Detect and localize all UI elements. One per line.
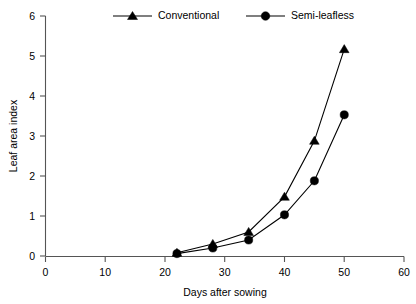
y-axis: 6 5 4 3 2 1 0 Leaf area index (7, 10, 46, 262)
legend-label-conventional: Conventional (158, 9, 219, 21)
circle-marker-icon (173, 250, 181, 258)
legend-entry-semi-leafless[interactable]: Semi-leafless (246, 9, 354, 21)
circle-marker-icon (209, 244, 217, 252)
legend-label-semi-leafless: Semi-leafless (291, 9, 354, 21)
x-tick-label-60: 60 (398, 266, 410, 278)
series-conventional (172, 45, 349, 257)
y-axis-title: Leaf area index (7, 99, 19, 172)
circle-marker-icon (280, 211, 288, 219)
legend-entry-conventional[interactable]: Conventional (113, 9, 219, 21)
y-tick-label-1: 1 (29, 210, 35, 222)
circle-marker-icon (261, 12, 270, 21)
x-axis: 0 10 20 30 40 50 60 Days after sowing (43, 257, 410, 299)
triangle-marker-icon (280, 192, 290, 200)
chart-legend: Conventional Semi-leafless (113, 9, 354, 21)
y-tick-label-2: 2 (29, 170, 35, 182)
x-tick-label-30: 30 (219, 266, 231, 278)
series-semi-leafless (173, 111, 349, 258)
line-chart: Conventional Semi-leafless 6 5 4 3 2 1 (0, 0, 416, 304)
y-tick-label-6: 6 (29, 10, 35, 22)
circle-marker-icon (245, 236, 253, 244)
x-tick-label-10: 10 (99, 266, 111, 278)
x-axis-title: Days after sowing (183, 286, 267, 298)
plot-area (172, 45, 349, 258)
y-tick-label-4: 4 (29, 90, 35, 102)
y-tick-label-3: 3 (29, 130, 35, 142)
x-tick-label-0: 0 (43, 266, 49, 278)
x-tick-label-20: 20 (159, 266, 171, 278)
triangle-marker-icon (339, 45, 349, 53)
y-tick-label-5: 5 (29, 50, 35, 62)
chart-figure: Conventional Semi-leafless 6 5 4 3 2 1 (0, 0, 416, 304)
triangle-marker-icon (310, 136, 320, 144)
series-line (177, 49, 344, 253)
series-line (177, 115, 344, 254)
circle-marker-icon (310, 177, 318, 185)
y-tick-label-0: 0 (29, 250, 35, 262)
circle-marker-icon (340, 111, 348, 119)
x-tick-label-50: 50 (338, 266, 350, 278)
x-tick-label-40: 40 (279, 266, 291, 278)
